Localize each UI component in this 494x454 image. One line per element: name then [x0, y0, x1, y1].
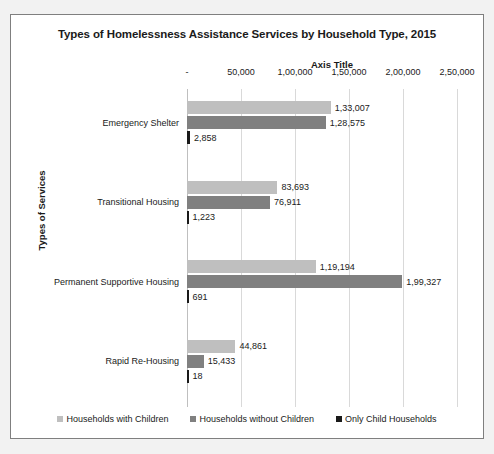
bar-value-label: 44,861 — [239, 341, 267, 351]
bar — [187, 370, 189, 383]
bar — [187, 290, 189, 303]
legend-label: Households with Children — [66, 414, 168, 424]
x-tick-label: 1,50,000 — [331, 67, 366, 77]
legend-item[interactable]: Households without Children — [190, 414, 314, 424]
legend-item[interactable]: Only Child Households — [336, 414, 437, 424]
bar — [187, 116, 326, 129]
x-tick-label: 2,00,000 — [385, 67, 420, 77]
bar-value-label: 1,33,007 — [335, 103, 370, 113]
x-gridline — [241, 89, 242, 407]
bar-value-label: 1,19,194 — [320, 262, 355, 272]
legend-swatch-icon — [190, 416, 196, 422]
legend-swatch-icon — [336, 416, 342, 422]
chart-title: Types of Homelessness Assistance Service… — [11, 28, 483, 40]
bar — [187, 196, 270, 209]
x-gridline — [403, 89, 404, 407]
x-gridline — [457, 89, 458, 407]
y-axis-title: Types of Services — [36, 170, 47, 250]
y-category-label: Transitional Housing — [97, 197, 179, 207]
legend-label: Households without Children — [199, 414, 314, 424]
bar-value-label: 76,911 — [274, 197, 301, 207]
bar-value-label: 83,693 — [281, 182, 309, 192]
x-gridline — [349, 89, 350, 407]
bar — [187, 275, 402, 288]
bar-value-label: 2,858 — [194, 133, 217, 143]
bar-value-label: 15,433 — [208, 356, 236, 366]
x-tick-label: - — [186, 67, 189, 77]
y-category-label: Permanent Supportive Housing — [54, 277, 179, 287]
bar-value-label: 1,99,327 — [406, 277, 441, 287]
bar — [187, 355, 204, 368]
legend-label: Only Child Households — [345, 414, 437, 424]
legend-swatch-icon — [57, 416, 63, 422]
bar — [187, 340, 235, 353]
x-tick-label: 1,00,000 — [277, 67, 312, 77]
bar — [187, 181, 277, 194]
x-tick-label: 50,000 — [227, 67, 255, 77]
y-category-label: Emergency Shelter — [102, 118, 179, 128]
y-category-label: Rapid Re-Housing — [105, 356, 179, 366]
bar-value-label: 691 — [193, 292, 208, 302]
chart-frame: Types of Homelessness Assistance Service… — [10, 14, 484, 439]
bar-value-label: 1,223 — [193, 212, 216, 222]
x-tick-label: 2,50,000 — [439, 67, 474, 77]
bar — [187, 131, 190, 144]
legend-item[interactable]: Households with Children — [57, 414, 168, 424]
plot-area: -50,0001,00,0001,50,0002,00,0002,50,000E… — [187, 89, 457, 407]
bar — [187, 101, 331, 114]
bar-value-label: 18 — [193, 371, 203, 381]
bar — [187, 211, 189, 224]
x-gridline — [295, 89, 296, 407]
bar-value-label: 1,28,575 — [330, 118, 365, 128]
bar — [187, 260, 316, 273]
chart-legend: Households with ChildrenHouseholds witho… — [11, 414, 483, 424]
